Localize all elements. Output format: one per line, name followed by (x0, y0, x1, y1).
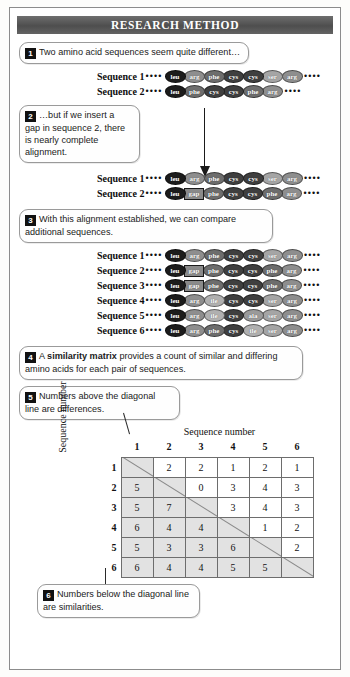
residue-strip: leuargilecyscysserarg (165, 294, 302, 307)
residue-arg: arg (184, 294, 205, 307)
residue-gap: gap (184, 280, 204, 292)
residue-phe: phe (262, 264, 283, 277)
matrix-diagonal-cell (121, 457, 153, 477)
residue-leu: leu (165, 279, 186, 292)
step-badge-2: 2 (25, 111, 36, 122)
residue-cys: cys (223, 324, 244, 337)
residue-cys: cys (242, 279, 263, 292)
residue-phe: phe (262, 279, 283, 292)
residue-cys: cys (223, 85, 244, 98)
matrix-row: 122121 (107, 457, 313, 477)
matrix-difference-cell: 0 (185, 477, 217, 497)
residue-leu: leu (165, 294, 186, 307)
step-6-container: 6Numbers below the diagonal line are sim… (15, 584, 200, 618)
residue-cys: cys (243, 294, 264, 307)
matrix-top-axis-label: Sequence number (107, 426, 332, 437)
residue-gap: gap (184, 265, 204, 277)
callout-step-5: 5Numbers above the diagonal line are dif… (19, 386, 180, 420)
residue-ile: ile (204, 294, 225, 307)
callout-step-1-text: Two amino acid sequences seem quite diff… (39, 47, 240, 57)
step-5-container: 5Numbers above the diagonal line are dif… (15, 386, 180, 420)
residue-ser: ser (262, 70, 283, 83)
matrix-difference-cell: 2 (281, 517, 313, 537)
sequence-label: Sequence 1 (97, 250, 145, 261)
sequence-row: Sequence 1••••leuargphecyscysserarg•••• (15, 248, 335, 263)
residue-phe: phe (204, 324, 225, 337)
matrix-col-header: 6 (281, 437, 313, 457)
sequence-row: Sequence 2••••leugapphecyscysphearg•••• (15, 263, 335, 278)
residue-arg: arg (184, 249, 205, 262)
matrix-difference-cell: 4 (249, 497, 281, 517)
residue-cys: cys (223, 294, 244, 307)
residue-cys: cys (223, 172, 244, 185)
residue-arg: arg (281, 264, 302, 277)
residue-leu: leu (165, 187, 186, 200)
residue-ile: ile (243, 324, 264, 337)
leading-dots: •••• (146, 189, 163, 198)
residue-phe: phe (204, 172, 225, 185)
matrix-similarity-cell: 6 (217, 537, 249, 557)
residue-cys: cys (223, 249, 244, 262)
sequence-row: Sequence 2••••leuphecyscysphearg•••• (15, 84, 335, 99)
trailing-dots: •••• (285, 87, 302, 96)
similarity-matrix-area: Sequence number Sequence number 123456 1… (15, 426, 335, 578)
residue-gap: gap (184, 188, 204, 200)
panel-2-sequences: Sequence 1••••leuargphecyscysserarg••••S… (15, 171, 335, 201)
leading-dots: •••• (146, 266, 163, 275)
residue-cys: cys (223, 70, 244, 83)
leading-dots: •••• (146, 72, 163, 81)
leading-dots: •••• (146, 311, 163, 320)
figure-page: RESEARCH METHOD 1Two amino acid sequence… (0, 0, 350, 677)
residue-arg: arg (282, 70, 303, 83)
matrix-difference-cell: 4 (249, 477, 281, 497)
residue-arg: arg (282, 324, 303, 337)
residue-phe: phe (184, 85, 205, 98)
residue-cys: cys (223, 264, 244, 277)
matrix-row: 357343 (107, 497, 313, 517)
header-bar: RESEARCH METHOD (17, 16, 333, 34)
matrix-row: 464412 (107, 517, 313, 537)
residue-strip: leuargphecysileserarg (165, 324, 302, 337)
callout-step-3: 3With this alignment established, we can… (19, 209, 273, 243)
matrix-body: 122121250343357343464412553362664455 (107, 457, 313, 577)
matrix-row-header: 6 (107, 557, 121, 577)
sequence-label: Sequence 2 (97, 86, 145, 97)
residue-phe: phe (203, 279, 224, 292)
sequence-row: Sequence 1••••leuargphecyscysserarg•••• (15, 69, 335, 84)
matrix-col-header: 2 (153, 437, 185, 457)
matrix-difference-cell: 2 (249, 457, 281, 477)
matrix-col-header: 4 (217, 437, 249, 457)
sequence-label: Sequence 2 (97, 188, 145, 199)
sequence-row: Sequence 6••••leuargphecysileserarg•••• (15, 323, 335, 338)
sequence-label: Sequence 3 (97, 280, 145, 291)
residue-leu: leu (165, 249, 186, 262)
matrix-similarity-cell: 6 (121, 517, 153, 537)
residue-strip: leugapphecyscysphearg (165, 279, 301, 292)
step-badge-6: 6 (43, 590, 54, 601)
residue-phe: phe (203, 187, 224, 200)
matrix-similarity-cell: 5 (217, 557, 249, 577)
residue-phe: phe (204, 70, 225, 83)
matrix-similarity-cell: 5 (121, 497, 153, 517)
trailing-dots: •••• (304, 326, 321, 335)
sequence-label: Sequence 1 (97, 71, 145, 82)
matrix-diagonal-cell (153, 477, 185, 497)
matrix-row: 664455 (107, 557, 313, 577)
residue-phe: phe (262, 187, 283, 200)
sequence-row: Sequence 1••••leuargphecyscysserarg•••• (15, 171, 335, 186)
residue-cys: cys (223, 279, 244, 292)
residue-cys: cys (223, 309, 244, 322)
matrix-difference-cell: 3 (281, 497, 313, 517)
residue-ala: ala (243, 309, 264, 322)
matrix-difference-cell: 3 (217, 477, 249, 497)
matrix-row-header: 3 (107, 497, 121, 517)
residue-phe: phe (203, 264, 224, 277)
step-2-container: 2…but if we insert a gap in sequence 2, … (15, 105, 140, 163)
trailing-dots: •••• (304, 72, 321, 81)
residue-cys: cys (204, 85, 225, 98)
leading-dots: •••• (146, 87, 163, 96)
matrix-diagonal-cell (185, 497, 217, 517)
leading-dots: •••• (146, 281, 163, 290)
residue-leu: leu (165, 70, 186, 83)
residue-arg: arg (282, 249, 303, 262)
